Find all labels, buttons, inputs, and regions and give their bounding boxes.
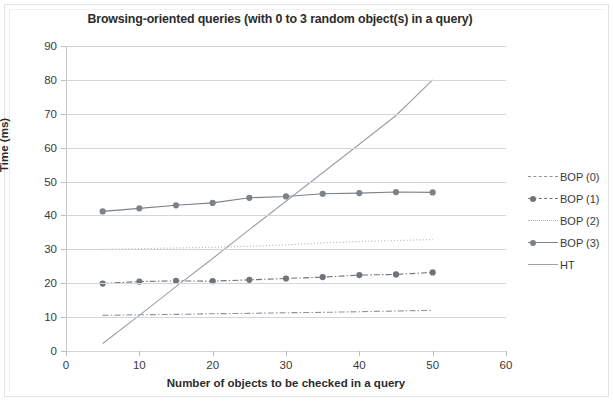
x-axis-title: Number of objects to be checked in a que… — [66, 377, 506, 389]
x-tick-label: 60 — [486, 359, 526, 371]
x-tick-mark — [139, 351, 140, 356]
y-tick-label: 40 — [27, 209, 57, 221]
y-tick-mark — [61, 249, 66, 250]
y-tick-mark — [61, 114, 66, 115]
gridline — [66, 249, 506, 250]
legend-key-line — [528, 220, 558, 221]
plot-area — [66, 46, 506, 351]
legend-key-line — [528, 264, 558, 265]
legend-item-ht[interactable]: HT — [528, 254, 613, 276]
chart-figure: Browsing-oriented queries (with 0 to 3 r… — [0, 0, 613, 401]
gridline — [66, 46, 506, 47]
legend-item-bop-0[interactable]: BOP (0) — [528, 166, 613, 188]
data-point-marker — [356, 190, 362, 196]
y-tick-mark — [61, 80, 66, 81]
series-layer — [66, 46, 506, 351]
series-line — [103, 272, 433, 283]
y-tick-mark — [61, 283, 66, 284]
legend-key-icon — [528, 259, 558, 271]
x-tick-label: 50 — [413, 359, 453, 371]
data-point-marker — [393, 189, 399, 195]
data-point-marker — [283, 275, 289, 281]
series-ht — [103, 80, 433, 344]
legend-item-label: BOP (2) — [558, 215, 600, 227]
x-tick-label: 20 — [193, 359, 233, 371]
data-point-marker — [320, 274, 326, 280]
y-tick-label: 30 — [27, 243, 57, 255]
x-tick-label: 40 — [339, 359, 379, 371]
y-tick-label: 0 — [27, 345, 57, 357]
y-tick-mark — [61, 46, 66, 47]
x-tick-mark — [359, 351, 360, 356]
data-point-marker — [136, 205, 142, 211]
series-line — [103, 240, 433, 250]
x-tick-label: 0 — [46, 359, 86, 371]
legend-key-marker — [530, 196, 536, 202]
y-tick-label: 10 — [27, 311, 57, 323]
data-point-marker — [430, 189, 436, 195]
x-tick-mark — [213, 351, 214, 356]
series-bop-0 — [103, 310, 433, 315]
data-point-marker — [100, 208, 106, 214]
y-tick-label: 60 — [27, 142, 57, 154]
x-tick-label: 10 — [119, 359, 159, 371]
gridline — [66, 114, 506, 115]
gridline — [66, 80, 506, 81]
data-point-marker — [246, 277, 252, 283]
y-tick-label: 20 — [27, 277, 57, 289]
legend-item-bop-2[interactable]: BOP (2) — [528, 210, 613, 232]
y-tick-label: 80 — [27, 74, 57, 86]
legend-item-bop-3[interactable]: BOP (3) — [528, 232, 613, 254]
gridline — [66, 215, 506, 216]
chart-title: Browsing-oriented queries (with 0 to 3 r… — [0, 12, 560, 26]
x-tick-mark — [506, 351, 507, 356]
x-tick-mark — [433, 351, 434, 356]
gridline — [66, 283, 506, 284]
data-point-marker — [430, 269, 436, 275]
gridline — [66, 182, 506, 183]
data-point-marker — [320, 191, 326, 197]
legend-key-line — [528, 176, 558, 177]
gridline — [66, 317, 506, 318]
data-point-marker — [173, 202, 179, 208]
x-tick-mark — [286, 351, 287, 356]
legend-item-label: HT — [558, 259, 575, 271]
legend-key-marker — [530, 240, 536, 246]
data-point-marker — [210, 200, 216, 206]
data-point-marker — [283, 193, 289, 199]
series-line — [103, 80, 433, 344]
legend-key-icon — [528, 193, 558, 205]
legend-item-label: BOP (3) — [558, 237, 600, 249]
y-tick-mark — [61, 317, 66, 318]
data-point-marker — [356, 272, 362, 278]
series-line — [103, 310, 433, 315]
series-bop-3 — [100, 189, 436, 215]
y-tick-label: 50 — [27, 176, 57, 188]
x-tick-label: 30 — [266, 359, 306, 371]
chart-legend: BOP (0)BOP (1)BOP (2)BOP (3)HT — [528, 166, 613, 276]
legend-key-icon — [528, 171, 558, 183]
legend-item-bop-1[interactable]: BOP (1) — [528, 188, 613, 210]
y-axis-title: Time (ms) — [0, 118, 10, 172]
legend-item-label: BOP (1) — [558, 193, 600, 205]
series-line — [103, 192, 433, 211]
legend-key-icon — [528, 215, 558, 227]
legend-key-icon — [528, 237, 558, 249]
y-tick-mark — [61, 182, 66, 183]
x-tick-mark — [66, 351, 67, 356]
data-point-marker — [246, 195, 252, 201]
y-tick-label: 90 — [27, 40, 57, 52]
data-point-marker — [393, 271, 399, 277]
y-tick-mark — [61, 215, 66, 216]
gridline — [66, 148, 506, 149]
y-tick-label: 70 — [27, 108, 57, 120]
series-bop-2 — [103, 240, 433, 250]
y-tick-mark — [61, 148, 66, 149]
legend-item-label: BOP (0) — [558, 171, 600, 183]
